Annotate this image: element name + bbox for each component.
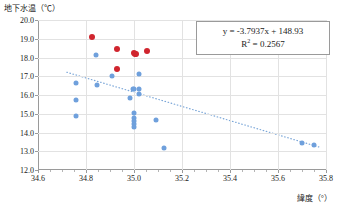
x-minor-tick <box>314 170 315 172</box>
x-tick-label: 35.0 <box>127 174 141 183</box>
data-point <box>133 51 139 57</box>
data-point <box>132 87 137 92</box>
y-tick-label: 14.0 <box>20 128 34 137</box>
data-point <box>311 142 316 147</box>
x-minor-tick <box>110 170 111 172</box>
data-point <box>114 46 120 52</box>
y-tick-label: 20.0 <box>20 16 34 25</box>
x-minor-tick <box>266 170 267 172</box>
x-minor-tick <box>206 170 207 172</box>
gridline-vertical <box>86 20 87 170</box>
y-tick-label: 19.0 <box>20 34 34 43</box>
x-tick-mark <box>134 170 135 173</box>
x-tick-mark <box>86 170 87 173</box>
x-tick-label: 35.6 <box>271 174 285 183</box>
data-point <box>300 140 305 145</box>
x-tick-label: 34.8 <box>79 174 93 183</box>
x-minor-tick <box>146 170 147 172</box>
x-minor-tick <box>74 170 75 172</box>
x-axis-label: 緯度（°） <box>297 192 332 203</box>
y-axis-label: 地下水温（℃） <box>4 2 60 13</box>
scatter-chart: 地下水温（℃） 12.013.014.015.016.017.018.019.0… <box>0 0 338 204</box>
x-tick-mark <box>182 170 183 173</box>
x-tick-label: 34.6 <box>31 174 45 183</box>
y-tick-label: 13.0 <box>20 147 34 156</box>
y-tick-label: 16.0 <box>20 91 34 100</box>
data-point <box>73 114 78 119</box>
data-point <box>162 145 167 150</box>
data-point <box>131 125 136 130</box>
y-tick-label: 18.0 <box>20 53 34 62</box>
data-point <box>128 96 133 101</box>
data-point <box>94 82 99 87</box>
y-tick-mark <box>35 151 38 152</box>
x-minor-tick <box>98 170 99 172</box>
x-tick-label: 35.4 <box>223 174 237 183</box>
data-point <box>89 34 95 40</box>
x-minor-tick <box>170 170 171 172</box>
x-tick-label: 35.8 <box>319 174 333 183</box>
x-minor-tick <box>302 170 303 172</box>
y-tick-mark <box>35 133 38 134</box>
data-point <box>74 97 79 102</box>
x-minor-tick <box>62 170 63 172</box>
r-squared-value: R2 = 0.2567 <box>199 37 327 50</box>
regression-equation: y = -3.7937x + 148.93 <box>199 25 327 37</box>
data-point <box>114 66 120 72</box>
x-tick-mark <box>38 170 39 173</box>
x-minor-tick <box>242 170 243 172</box>
x-minor-tick <box>290 170 291 172</box>
y-tick-mark <box>35 76 38 77</box>
data-point <box>94 53 99 58</box>
x-minor-tick <box>194 170 195 172</box>
x-tick-mark <box>326 170 327 173</box>
data-point <box>136 72 141 77</box>
gridline-vertical <box>182 20 183 170</box>
x-minor-tick <box>122 170 123 172</box>
data-point <box>144 48 150 54</box>
data-point <box>109 73 114 78</box>
y-tick-mark <box>35 95 38 96</box>
x-minor-tick <box>218 170 219 172</box>
x-tick-mark <box>230 170 231 173</box>
y-tick-mark <box>35 39 38 40</box>
x-minor-tick <box>158 170 159 172</box>
r-squared-number: = 0.2567 <box>250 39 284 49</box>
y-tick-mark <box>35 20 38 21</box>
y-tick-label: 15.0 <box>20 109 34 118</box>
data-point <box>153 118 158 123</box>
data-point <box>137 92 142 97</box>
regression-annotation-box: y = -3.7937x + 148.93 R2 = 0.2567 <box>196 21 330 55</box>
data-point <box>74 80 79 85</box>
x-tick-label: 35.2 <box>175 174 189 183</box>
y-tick-mark <box>35 58 38 59</box>
y-tick-mark <box>35 114 38 115</box>
y-tick-label: 17.0 <box>20 72 34 81</box>
x-tick-mark <box>278 170 279 173</box>
x-minor-tick <box>254 170 255 172</box>
gridline-vertical <box>134 20 135 170</box>
x-minor-tick <box>50 170 51 172</box>
